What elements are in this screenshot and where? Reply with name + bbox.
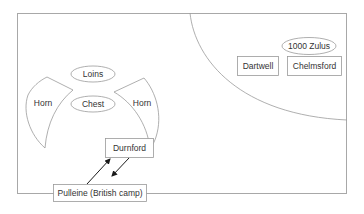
dartwell-label: Dartwell	[243, 61, 274, 71]
pulleine-label: Pulleine (British camp)	[57, 188, 142, 198]
zulus-label: 1000 Zulus	[288, 41, 330, 51]
durnford-label: Durnford	[113, 143, 146, 153]
pulleine-group: Pulleine (British camp)	[54, 185, 147, 202]
loins-group: Loins	[71, 66, 115, 82]
right-horn-shape	[114, 78, 159, 148]
dartwell-group: Dartwell	[238, 57, 279, 76]
durnford-group: Durnford	[106, 139, 154, 158]
left-horn-group: Horn	[26, 77, 73, 148]
chest-group: Chest	[71, 96, 115, 112]
left-horn-shape	[26, 77, 73, 148]
battle-diagram: 1000 Zulus Dartwell Chelmsford Loins Che…	[0, 0, 364, 214]
arrow-to-camp	[112, 158, 129, 176]
left-horn-label: Horn	[34, 98, 53, 108]
chelmsford-group: Chelmsford	[288, 57, 342, 76]
chelmsford-label: Chelmsford	[293, 61, 337, 71]
right-horn-group: Horn	[114, 78, 159, 148]
arrow-to-durnford	[87, 159, 110, 184]
zulus-group: 1000 Zulus	[282, 38, 336, 55]
right-horn-label: Horn	[133, 98, 152, 108]
loins-label: Loins	[83, 69, 103, 79]
chest-label: Chest	[82, 99, 105, 109]
